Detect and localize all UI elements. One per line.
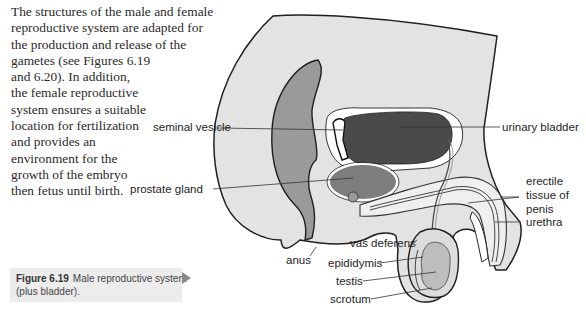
testis (421, 242, 450, 290)
label-testis: testis (336, 274, 363, 288)
label-scrotum: scrotum (330, 292, 371, 306)
urinary-bladder (340, 112, 452, 164)
bulbourethral-gland (348, 192, 358, 202)
label-vas-deferens: vas deferens (350, 236, 416, 250)
label-erectile-1: erectile (526, 174, 563, 188)
label-urethra: urethra (526, 215, 562, 229)
label-anus: anus (286, 253, 311, 267)
label-erectile-3: penis (526, 202, 554, 216)
label-urinary-bladder: urinary bladder (502, 120, 579, 134)
label-erectile-2: tissue of (526, 188, 569, 202)
label-epididymis: epididymis (328, 256, 382, 270)
caption-arrow-icon (182, 272, 191, 284)
caption-line-2: (plus bladder). (16, 286, 80, 297)
figure-number: Figure 6.19 (16, 273, 69, 284)
label-prostate-gland: prostate gland (130, 182, 203, 196)
label-seminal-vesicle: seminal vesicle (153, 120, 231, 134)
caption-line-1: Male reproductive system (73, 273, 187, 284)
prostate-gland (329, 164, 397, 200)
figure-caption: Figure 6.19Male reproductive system (plu… (16, 272, 191, 298)
